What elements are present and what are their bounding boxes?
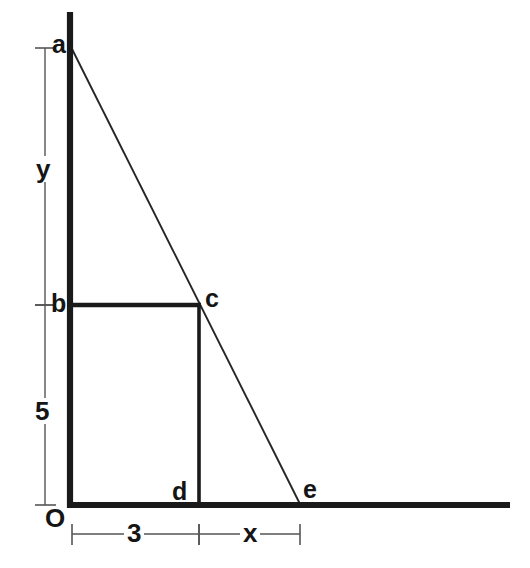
line-a-to-e <box>71 47 301 506</box>
point-label-b: b <box>51 291 66 316</box>
geometry-diagram: a b c d e O y 5 3 x <box>0 0 530 568</box>
dimension-label-3: 3 <box>124 520 144 546</box>
dimension-label-5: 5 <box>32 398 52 424</box>
point-label-c: c <box>205 286 219 311</box>
point-label-origin: O <box>45 505 65 531</box>
dimension-label-x: x <box>240 520 260 546</box>
figure-canvas <box>0 0 530 568</box>
point-label-a: a <box>52 32 66 57</box>
dimension-label-y: y <box>33 156 53 182</box>
point-label-e: e <box>303 477 317 502</box>
point-label-d: d <box>172 479 187 504</box>
dimension-lines <box>35 48 300 545</box>
